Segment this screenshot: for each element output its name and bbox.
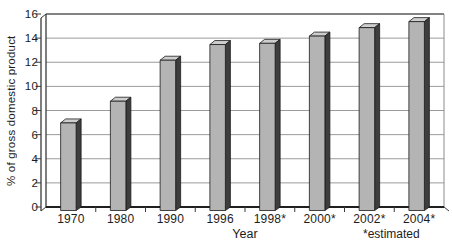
y-tick-label-6: 6 [10, 129, 38, 141]
y-tick-label-2: 2 [10, 177, 38, 189]
x-tick-label-1998: 1998* [245, 212, 295, 226]
x-tick-label-1970: 1970 [46, 212, 96, 226]
bar-side-1990 [176, 56, 181, 210]
bar-front-1980 [110, 101, 126, 210]
bar-side-1970 [76, 119, 81, 211]
x-tick-label-2004: 2004* [394, 212, 444, 226]
y-tick-label-14: 14 [10, 32, 38, 44]
y-tick-label-16: 16 [10, 8, 38, 20]
bar-front-2004 [409, 22, 425, 211]
bar-side-1980 [126, 97, 131, 210]
bar-side-2002 [375, 24, 380, 211]
x-category-labels: 1970 1980 1990 1996 1998* 2000* 2002* 20… [46, 212, 444, 226]
bar-side-1998 [275, 39, 280, 210]
bar-front-1970 [61, 123, 77, 211]
x-tick-label-2000: 2000* [295, 212, 345, 226]
x-tick-label-1996: 1996 [195, 212, 245, 226]
estimated-footnote: *estimated [363, 227, 420, 241]
bar-side-1996 [225, 41, 230, 211]
plot-canvas [0, 0, 452, 243]
bar-side-2004 [424, 18, 429, 211]
gdp-percentage-bar-chart: % of gross domestic product 16 14 12 10 … [0, 0, 452, 243]
y-tick-label-0: 0 [10, 201, 38, 213]
bar-front-1990 [160, 60, 176, 210]
bar-front-2002 [359, 28, 375, 211]
y-tick-label-12: 12 [10, 56, 38, 68]
y-tick-label-8: 8 [10, 105, 38, 117]
bar-front-1998 [260, 43, 276, 210]
bar-front-1996 [210, 45, 226, 211]
y-tick-label-10: 10 [10, 80, 38, 92]
depth-edge-bottom-right [444, 207, 449, 211]
x-tick-label-2002: 2002* [345, 212, 395, 226]
depth-edge-bottom-left [41, 207, 46, 211]
x-tick-label-1980: 1980 [96, 212, 146, 226]
depth-edge-top-left [41, 14, 46, 18]
bar-side-2000 [325, 32, 330, 210]
bar-front-2000 [309, 36, 325, 210]
y-tick-label-4: 4 [10, 153, 38, 165]
x-tick-label-1990: 1990 [146, 212, 196, 226]
